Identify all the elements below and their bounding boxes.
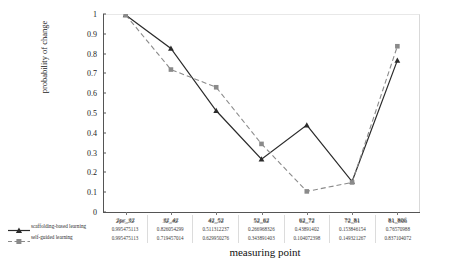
y-tick-label: 0.2	[63, 168, 97, 177]
table-cell: 0.995475113	[103, 234, 147, 243]
data-point-marker	[394, 57, 400, 62]
table-header-cell: 42_52	[193, 215, 239, 225]
series-lines	[103, 14, 420, 212]
legend-item-0: scaffolding-based learning	[8, 221, 96, 230]
table-header-cell: 52_62	[239, 215, 285, 225]
data-point-marker	[304, 189, 309, 194]
table-cell: 0.826054299	[147, 225, 193, 234]
table-cell: 0.511312237	[193, 225, 239, 234]
table-cell: 0.343891403	[239, 234, 285, 243]
data-point-marker	[169, 67, 174, 72]
legend-item-1: self-guided learning	[8, 232, 96, 241]
chart-figure: probability of change 00.10.20.30.40.50.…	[0, 0, 450, 267]
y-axis-title: probability of change	[39, 0, 49, 137]
y-tick-label: 0.3	[63, 148, 97, 157]
y-tick-label: 0.8	[63, 49, 97, 58]
legend-triangle-icon	[8, 221, 30, 230]
table-cell: 0.837104072	[375, 234, 420, 243]
table-cell: 0.149321267	[330, 234, 376, 243]
y-tick-label: 0.5	[63, 109, 97, 118]
table-header-cell: 62_72	[284, 215, 330, 225]
table-row: 0.9954751130.7194570140.6299502760.34389…	[103, 234, 420, 243]
table-header-cell: 32_42	[147, 215, 193, 225]
table-cell: 0.76570988	[375, 225, 420, 234]
chart-legend: scaffolding-based learningself-guided le…	[8, 221, 96, 243]
legend-label: self-guided learning	[31, 234, 73, 240]
y-tick-label: 0.1	[63, 188, 97, 197]
data-point-marker	[259, 142, 264, 147]
table-cell: 0.995475113	[103, 225, 147, 234]
data-point-marker	[214, 85, 219, 90]
table-header-cell: 72_81	[330, 215, 376, 225]
data-table: 2pc_3232_4242_5252_6262_7272_8181_80б0.9…	[103, 215, 420, 243]
data-point-marker	[395, 44, 400, 49]
x-axis-title: measuring point	[195, 246, 335, 258]
table-cell: 0.719457014	[147, 234, 193, 243]
table-header-cell: 81_80б	[375, 215, 420, 225]
y-tick-label: 0.4	[63, 128, 97, 137]
data-point-marker	[304, 122, 310, 127]
legend-label: scaffolding-based learning	[31, 223, 86, 229]
table-cell: 0.104072398	[284, 234, 330, 243]
y-tick-label: 0	[63, 208, 97, 217]
data-point-marker	[123, 14, 128, 17]
series-line-1	[126, 15, 398, 191]
table-cell: 0.629950276	[193, 234, 239, 243]
table-cell: 0.43891402	[284, 225, 330, 234]
table-header-row: 2pc_3232_4242_5252_6262_7272_8181_80б	[103, 215, 420, 225]
table-header-cell: 2pc_32	[103, 215, 147, 225]
y-tick-label: 0.7	[63, 69, 97, 78]
table-row: 0.9954751130.8260542990.5113122370.26696…	[103, 225, 420, 234]
table-cell: 0.153846154	[330, 225, 376, 234]
table-cell: 0.266968326	[239, 225, 285, 234]
y-tick-label: 0.9	[63, 29, 97, 38]
data-point-marker	[350, 180, 355, 185]
y-tick-label: 0.6	[63, 89, 97, 98]
legend-square-icon	[8, 232, 30, 241]
y-tick-label: 1	[63, 10, 97, 19]
